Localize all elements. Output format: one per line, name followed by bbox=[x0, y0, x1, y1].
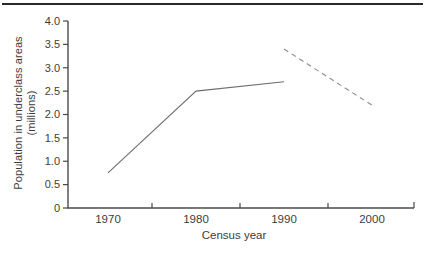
chart-canvas: 00.51.01.52.02.53.03.54.0197019801990200… bbox=[0, 0, 425, 255]
y-tick-label: 0.5 bbox=[45, 178, 60, 190]
y-tick-label: 3.5 bbox=[45, 38, 60, 50]
y-axis-title-line1: Population in underclass areas bbox=[12, 13, 25, 213]
y-tick-label: 2.5 bbox=[45, 85, 60, 97]
y-tick-label: 2.0 bbox=[45, 108, 60, 120]
y-tick-label: 1.0 bbox=[45, 155, 60, 167]
figure: 00.51.01.52.02.53.03.54.0197019801990200… bbox=[0, 0, 425, 255]
series-observed-line bbox=[108, 82, 284, 173]
y-tick-label: 3.0 bbox=[45, 62, 60, 74]
y-axis-title-line2: (millions) bbox=[25, 13, 38, 213]
y-tick-label: 1.5 bbox=[45, 132, 60, 144]
y-axis-title: Population in underclass areas (millions… bbox=[12, 13, 38, 213]
series-projected-line bbox=[284, 49, 372, 105]
x-tick-label: 1970 bbox=[95, 213, 121, 225]
x-tick-label: 1990 bbox=[271, 213, 297, 225]
x-tick-label: 1980 bbox=[183, 213, 209, 225]
x-axis-title: Census year bbox=[54, 229, 414, 241]
y-tick-label: 4.0 bbox=[45, 15, 60, 27]
x-tick-label: 2000 bbox=[359, 213, 385, 225]
y-tick-label: 0 bbox=[54, 202, 60, 214]
